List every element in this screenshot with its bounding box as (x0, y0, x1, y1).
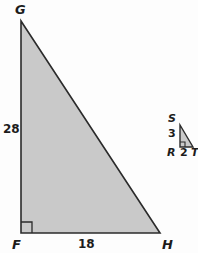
vertex-label-r: R (167, 147, 175, 158)
vertex-label-f: F (12, 238, 21, 251)
vertex-label-g: G (15, 3, 26, 16)
side-length-label-fh: 18 (78, 238, 95, 250)
side-length-label-gf: 28 (3, 123, 20, 135)
side-length-label-sr: 3 (168, 128, 176, 139)
vertex-label-s: S (168, 113, 176, 124)
vertex-label-h: H (162, 238, 173, 251)
large-triangle-shape (21, 21, 160, 233)
small-triangle-shape (180, 125, 193, 147)
side-length-label-rt: 2 (180, 147, 188, 158)
vertex-label-t: T (191, 147, 198, 158)
geometry-figure: G F H 28 18 S R T 3 2 (0, 0, 198, 253)
